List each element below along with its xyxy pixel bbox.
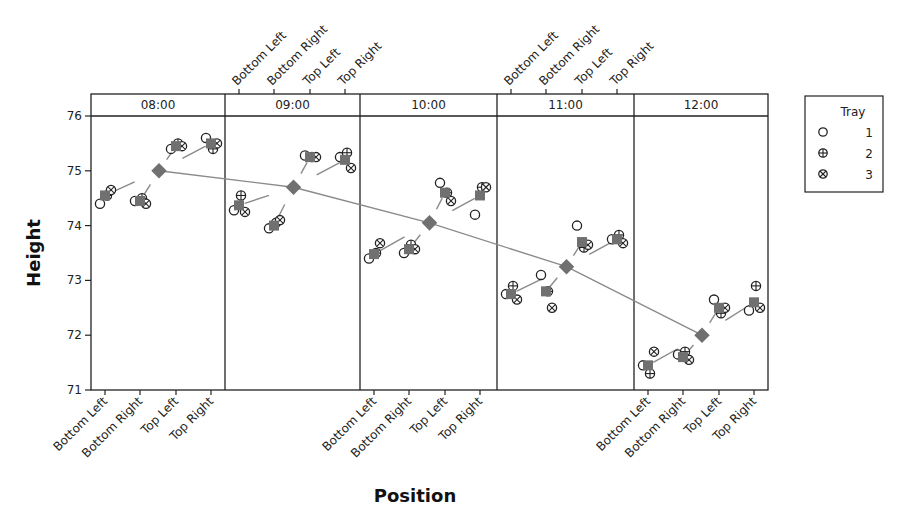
position-mean-spoke bbox=[245, 195, 269, 203]
open-circle-marker bbox=[536, 270, 545, 279]
open-circle-marker bbox=[435, 178, 444, 187]
position-mean-marker bbox=[404, 244, 414, 254]
time-mean-marker bbox=[151, 163, 167, 179]
position-mean-spoke bbox=[516, 279, 541, 291]
legend-title: Tray bbox=[840, 105, 866, 119]
position-mean-marker bbox=[340, 155, 350, 165]
legend-label: 2 bbox=[865, 147, 873, 161]
legend: Tray123 bbox=[805, 96, 883, 192]
x-tick-label-top: Top Right bbox=[607, 39, 657, 89]
open-circle-marker bbox=[470, 210, 479, 219]
plot-frame bbox=[91, 94, 768, 390]
position-mean-marker bbox=[305, 152, 315, 162]
position-mean-marker bbox=[269, 221, 279, 231]
circle-x-marker bbox=[649, 347, 658, 356]
circle-x-marker bbox=[375, 239, 384, 248]
legend-label: 3 bbox=[865, 168, 873, 182]
panel-label-0800: 08:00 bbox=[141, 98, 176, 112]
x-tick-label-top: Top Right bbox=[335, 39, 385, 89]
position-mean-marker bbox=[714, 303, 724, 313]
circle-x-marker bbox=[481, 183, 490, 192]
position-mean-spoke bbox=[301, 162, 307, 173]
y-tick-label: 74 bbox=[67, 219, 82, 233]
position-mean-marker bbox=[369, 249, 379, 259]
axis-labels: Bottom LeftBottom RightTop LeftTop Right… bbox=[50, 22, 759, 460]
y-tick-label: 72 bbox=[67, 328, 82, 342]
position-mean-marker bbox=[749, 297, 759, 307]
position-mean-marker bbox=[506, 289, 516, 299]
position-mean-marker bbox=[475, 190, 485, 200]
position-mean-marker bbox=[678, 352, 688, 362]
y-tick-label: 76 bbox=[67, 109, 82, 123]
interaction-plot: 717273747576 08:0009:0010:0011:0012:00 B… bbox=[0, 0, 902, 519]
y-tick-label: 73 bbox=[67, 273, 82, 287]
position-mean-marker bbox=[100, 190, 110, 200]
position-mean-marker bbox=[643, 360, 653, 370]
position-mean-marker bbox=[206, 138, 216, 148]
time-mean-marker bbox=[559, 259, 575, 275]
position-mean-marker bbox=[541, 286, 551, 296]
position-mean-marker bbox=[577, 237, 587, 247]
position-mean-spoke bbox=[550, 278, 557, 287]
x-tick-label-top: Bottom Right bbox=[536, 22, 602, 88]
circle-x-marker bbox=[547, 303, 556, 312]
x-tick-label-bottom: Bottom Right bbox=[348, 394, 414, 460]
circle-plus-marker bbox=[236, 191, 245, 200]
x-tick-label-bottom: Bottom Right bbox=[622, 394, 688, 460]
time-mean-marker bbox=[694, 327, 710, 343]
x-axis-title: Position bbox=[374, 485, 456, 506]
position-mean-marker bbox=[171, 141, 181, 151]
y-tick-label: 71 bbox=[67, 383, 82, 397]
position-mean-marker bbox=[440, 188, 450, 198]
position-mean-marker bbox=[135, 196, 145, 206]
mean-lines bbox=[110, 146, 748, 362]
time-mean-marker bbox=[422, 215, 438, 231]
data-points bbox=[95, 133, 764, 378]
open-circle-marker bbox=[572, 221, 581, 230]
y-axis-title: Height bbox=[23, 219, 44, 287]
x-tick-label-bottom: Bottom Right bbox=[79, 394, 145, 460]
x-tick-label-top: Bottom Right bbox=[264, 22, 330, 88]
time-mean-marker bbox=[286, 179, 302, 195]
open-circle-icon bbox=[819, 128, 827, 136]
panels: 08:0009:0010:0011:0012:00 bbox=[141, 94, 719, 390]
panel-label-0900: 09:00 bbox=[275, 98, 310, 112]
position-mean-spoke bbox=[710, 313, 716, 323]
position-mean-spoke bbox=[573, 247, 578, 255]
panel-label-1100: 11:00 bbox=[548, 98, 583, 112]
position-mean-marker bbox=[612, 234, 622, 244]
legend-label: 1 bbox=[865, 126, 873, 140]
position-mean-spoke bbox=[317, 163, 340, 175]
panel-label-1000: 10:00 bbox=[411, 98, 446, 112]
circle-plus-marker bbox=[751, 281, 760, 290]
panel-label-1200: 12:00 bbox=[684, 98, 719, 112]
position-mean-spoke bbox=[436, 198, 442, 209]
position-mean-marker bbox=[234, 200, 244, 210]
y-tick-label: 75 bbox=[67, 164, 82, 178]
